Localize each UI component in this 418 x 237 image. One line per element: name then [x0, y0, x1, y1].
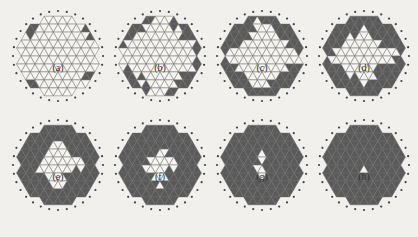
- panel-a: (a): [6, 8, 110, 120]
- panel-label-b: (b): [108, 62, 212, 73]
- mesh-disk-h: [312, 117, 416, 217]
- panel-label-a: (a): [6, 62, 110, 73]
- panel-label-f: (f): [108, 171, 212, 182]
- panel-d: (d): [312, 8, 416, 120]
- panel-g: (g): [210, 117, 314, 229]
- mesh-disk-c: [210, 8, 314, 108]
- panel-h: (h): [312, 117, 416, 229]
- panel-label-d: (d): [312, 62, 416, 73]
- panel-label-g: (g): [210, 171, 314, 182]
- mesh-disk-a: [6, 8, 110, 108]
- panel-b: (b): [108, 8, 212, 120]
- panel-c: (c): [210, 8, 314, 120]
- mesh-disk-e: [6, 117, 110, 217]
- mesh-disk-g: [210, 117, 314, 217]
- cropped-caption-text: [8, 0, 68, 2]
- panel-label-c: (c): [210, 62, 314, 73]
- panel-label-e: (e): [6, 171, 110, 182]
- mesh-disk-f: [108, 117, 212, 217]
- panel-e: (e): [6, 117, 110, 229]
- mesh-disk-b: [108, 8, 212, 108]
- panel-f: (f): [108, 117, 212, 229]
- mesh-disk-d: [312, 8, 416, 108]
- panel-label-h: (h): [312, 171, 416, 182]
